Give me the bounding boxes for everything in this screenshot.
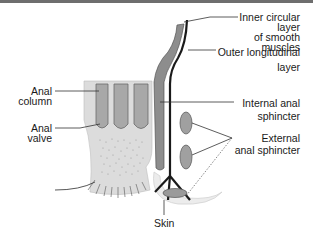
label-anal-valve: Anal valve	[10, 123, 52, 143]
label-outer-longitudinal: Outer longitudinal layer	[200, 45, 300, 75]
subcutaneous-sphincter	[163, 189, 187, 198]
external-sphincter-superficial	[180, 145, 192, 169]
label-anal-column: Anal column	[10, 86, 52, 106]
anal-column-3	[134, 84, 148, 129]
label-external-sphincter: External anal sphincter	[220, 132, 300, 156]
label-internal-sphincter: Internal anal sphincter	[220, 97, 300, 123]
label-skin: Skin	[154, 218, 174, 228]
external-sphincter-deep	[180, 112, 192, 134]
anal-column-2	[114, 84, 128, 129]
skin-fold	[154, 172, 223, 204]
